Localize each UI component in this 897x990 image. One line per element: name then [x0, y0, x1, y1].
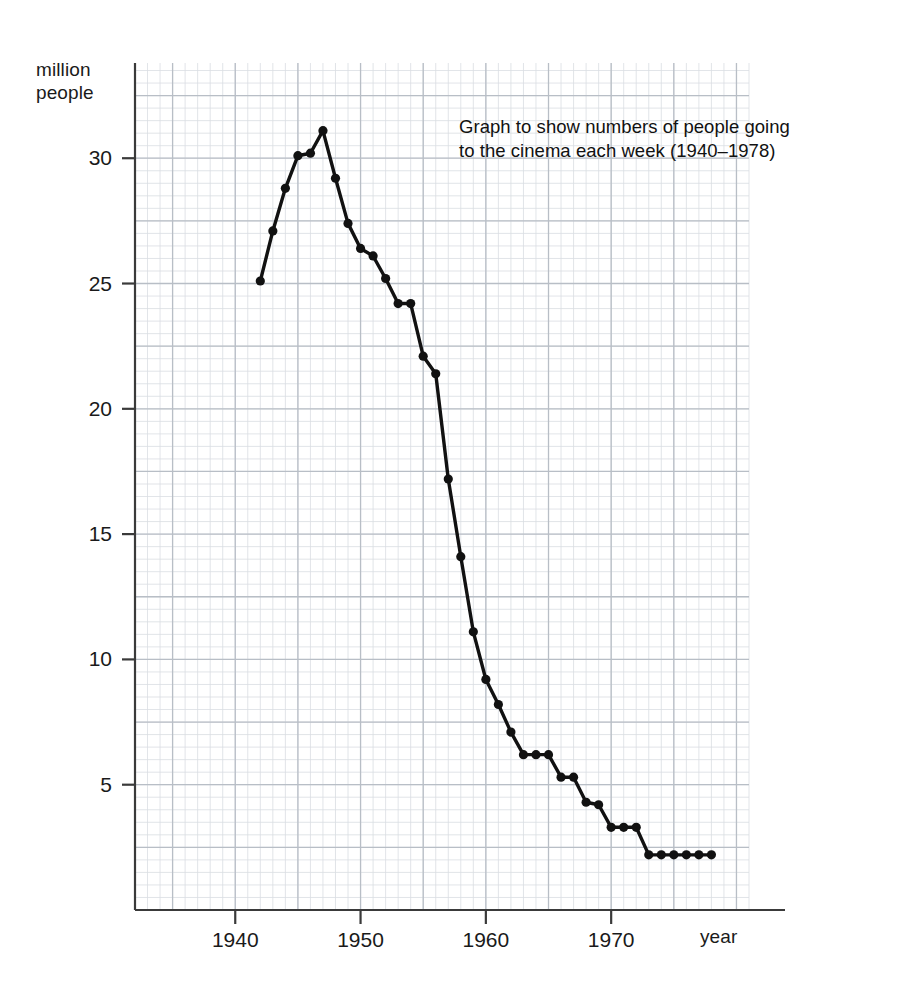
data-point-marker [569, 773, 578, 782]
data-point-marker [669, 850, 678, 859]
x-tick-label: 1940 [212, 928, 259, 952]
data-point-marker [531, 750, 540, 759]
data-point-marker [682, 850, 691, 859]
data-point-marker [318, 126, 327, 135]
chart-title: Graph to show numbers of people goingto … [459, 115, 879, 163]
data-point-marker [381, 274, 390, 283]
chart-title-line-2: to the cinema each week (1940–1978) [459, 140, 775, 161]
data-point-marker [456, 552, 465, 561]
data-point-marker [544, 750, 553, 759]
data-point-marker [644, 850, 653, 859]
data-point-marker [419, 352, 428, 361]
major-gridlines [135, 63, 749, 910]
data-point-marker [444, 474, 453, 483]
axis-lines [135, 63, 785, 910]
data-point-marker [657, 850, 666, 859]
data-point-marker [268, 226, 277, 235]
data-point-marker [406, 299, 415, 308]
data-point-marker [331, 174, 340, 183]
y-tick-label: 20 [60, 397, 112, 421]
cinema-attendance-line-chart: million people year Graph to show number… [0, 0, 897, 990]
data-point-marker [306, 149, 315, 158]
data-point-marker [519, 750, 528, 759]
data-point-marker [481, 675, 490, 684]
data-point-marker [343, 219, 352, 228]
data-point-marker [619, 823, 628, 832]
data-point-marker [293, 151, 302, 160]
data-point-marker [632, 823, 641, 832]
data-point-marker [506, 727, 515, 736]
y-tick-label: 5 [60, 773, 112, 797]
y-axis-label: million people [36, 58, 94, 104]
data-point-marker [281, 184, 290, 193]
x-tick-label: 1960 [462, 928, 509, 952]
data-point-marker [694, 850, 703, 859]
y-tick-label: 15 [60, 522, 112, 546]
chart-title-line-1: Graph to show numbers of people going [459, 116, 790, 137]
data-point-marker [368, 251, 377, 260]
x-tick-label: 1950 [337, 928, 384, 952]
data-point-marker [394, 299, 403, 308]
data-point-marker [582, 798, 591, 807]
x-tick-label: 1970 [588, 928, 635, 952]
y-tick-label: 25 [60, 272, 112, 296]
data-point-marker [356, 244, 365, 253]
y-tick-label: 10 [60, 647, 112, 671]
data-point-marker [707, 850, 716, 859]
y-tick-label: 30 [60, 146, 112, 170]
axis-ticks [122, 158, 611, 924]
minor-gridlines [135, 63, 749, 910]
data-point-marker [431, 369, 440, 378]
data-point-marker [607, 823, 616, 832]
data-point-marker [469, 627, 478, 636]
data-point-marker [556, 773, 565, 782]
data-point-marker [594, 800, 603, 809]
data-point-marker [494, 700, 503, 709]
data-point-marker [256, 276, 265, 285]
x-axis-label: year [700, 925, 737, 948]
